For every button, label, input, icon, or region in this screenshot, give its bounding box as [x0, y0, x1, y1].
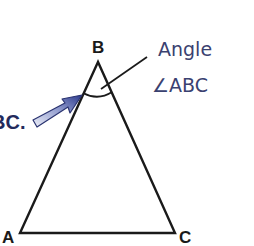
annotation-line-2: ∠ABC [152, 74, 208, 96]
vertex-label-b: B [92, 38, 104, 57]
angle-arc-b [83, 92, 112, 97]
triangle-diagram: B A C Angle ∠ABC BC. [0, 0, 254, 246]
vertex-label-a: A [2, 228, 14, 246]
vertex-label-c: C [179, 228, 191, 246]
annotation-line-1: Angle [158, 38, 212, 60]
partial-text-bc: BC. [0, 111, 25, 133]
annotation-pointer-line [101, 57, 147, 89]
